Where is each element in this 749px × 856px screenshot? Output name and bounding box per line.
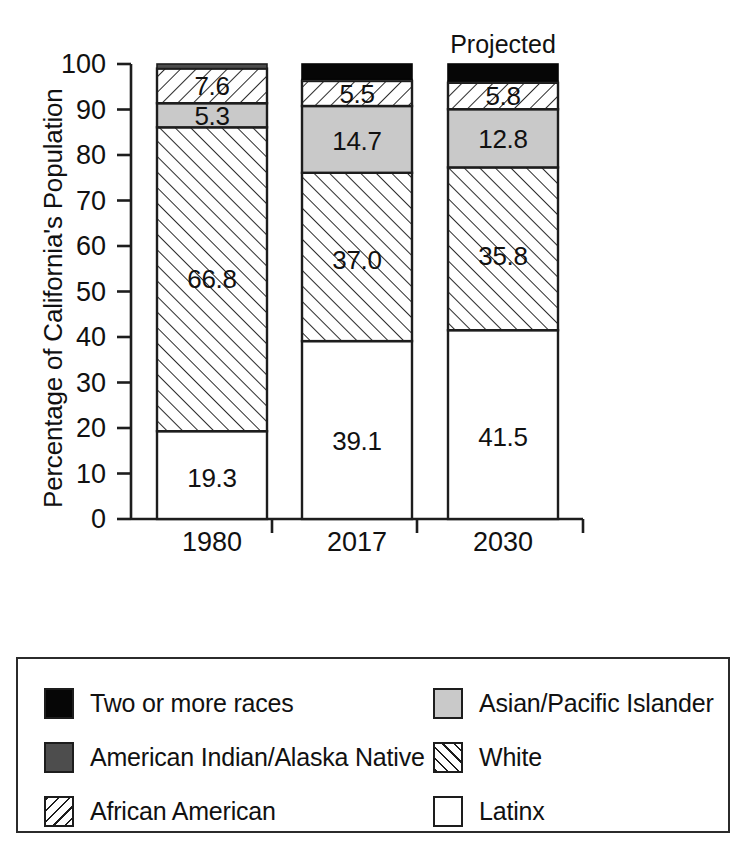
legend-label-african-american: African American — [90, 797, 276, 826]
y-tick-100: 100 — [22, 49, 106, 80]
legend-label-asian-pacific-islander: Asian/Pacific Islander — [479, 689, 714, 718]
value-label-2030-asian: 12.8 — [443, 124, 563, 155]
value-label-2030-african-american: 5.8 — [443, 81, 563, 112]
legend-swatch-latinx-icon — [433, 796, 463, 827]
value-label-2017-white: 37.0 — [297, 245, 417, 276]
y-tick-80: 80 — [22, 140, 106, 171]
legend-label-two-or-more-races: Two or more races — [90, 689, 294, 718]
y-tick-50: 50 — [22, 276, 106, 307]
legend-item-american-indian-alaska-native[interactable]: American Indian/Alaska Native — [44, 735, 425, 779]
legend-item-asian-pacific-islander[interactable]: Asian/Pacific Islander — [433, 681, 714, 725]
value-label-1980-asian: 5.3 — [152, 101, 272, 132]
legend-label-latinx: Latinx — [479, 797, 545, 826]
y-tick-20: 20 — [22, 413, 106, 444]
x-tick-1980: 1980 — [132, 527, 292, 558]
legend-swatch-asian-pacific-islander-icon — [433, 688, 463, 719]
y-tick-30: 30 — [22, 367, 106, 398]
bar-segment-1980-american-indian — [157, 64, 267, 69]
value-label-2017-asian: 14.7 — [297, 126, 417, 157]
x-tick-2030: 2030 — [423, 527, 583, 558]
y-tick-60: 60 — [22, 231, 106, 262]
y-tick-0: 0 — [22, 504, 106, 535]
legend-item-latinx[interactable]: Latinx — [433, 789, 714, 833]
y-tick-70: 70 — [22, 185, 106, 216]
value-label-2017-latinx: 39.1 — [297, 426, 417, 457]
legend-column-right: Asian/Pacific Islander White Latinx — [433, 681, 714, 843]
legend-label-white: White — [479, 743, 542, 772]
value-label-1980-latinx: 19.3 — [152, 463, 272, 494]
legend-swatch-american-indian-alaska-native-icon — [44, 742, 74, 773]
legend-swatch-african-american-icon — [44, 796, 74, 827]
y-tick-10: 10 — [22, 458, 106, 489]
y-tick-40: 40 — [22, 322, 106, 353]
y-tick-90: 90 — [22, 94, 106, 125]
y-axis-ticks — [117, 64, 131, 519]
legend: Two or more races American Indian/Alaska… — [16, 657, 730, 833]
bar-segment-2017-two-or-more — [302, 64, 412, 79]
x-tick-2017: 2017 — [277, 527, 437, 558]
legend-swatch-two-or-more-races-icon — [44, 688, 74, 719]
legend-swatch-white-icon — [433, 742, 463, 773]
legend-item-african-american[interactable]: African American — [44, 789, 425, 833]
projected-annotation: Projected — [403, 30, 603, 59]
bar-segment-2030-two-or-more — [448, 64, 558, 81]
legend-item-two-or-more-races[interactable]: Two or more races — [44, 681, 425, 725]
legend-label-american-indian-alaska-native: American Indian/Alaska Native — [90, 743, 425, 772]
value-label-2030-white: 35.8 — [443, 241, 563, 272]
value-label-1980-white: 66.8 — [152, 264, 272, 295]
legend-item-white[interactable]: White — [433, 735, 714, 779]
legend-column-left: Two or more races American Indian/Alaska… — [44, 681, 425, 843]
value-label-2030-latinx: 41.5 — [443, 422, 563, 453]
value-label-1980-african-american: 7.6 — [152, 71, 272, 102]
value-label-2017-african-american: 5.5 — [297, 79, 417, 110]
stacked-bar-chart: Percentage of California's Population 10… — [0, 0, 749, 856]
